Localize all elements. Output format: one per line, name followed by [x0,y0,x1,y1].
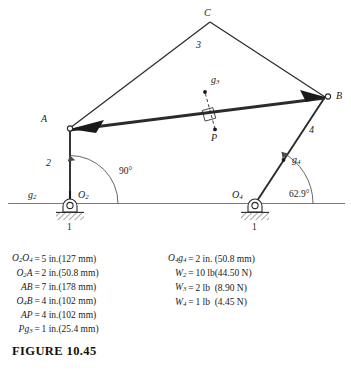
dimension-si-value: (25.4 mm) [58,323,98,338]
dimension-value: 2 in. [42,267,59,282]
dimension-column-left: O2O4=5 in.(127 mm)O2A=2 in.(50.8 mm)AB=7… [12,252,99,337]
dimension-row: AP=4 in.(102 mm) [12,309,99,322]
label-point-o2: O2 [78,190,89,202]
label-g2: g2 [28,190,37,202]
dimension-equals: = [33,309,42,322]
dimension-row: O2A=2 in.(50.8 mm) [12,267,99,282]
dimension-equals: = [186,252,195,267]
dimension-si-value: (44.50 N) [215,267,255,282]
dimension-symbol: W2 [168,267,186,282]
joint-b [325,94,330,99]
label-link-2: 2 [46,158,51,168]
dimension-data-block: O2O4=5 in.(127 mm)O2A=2 in.(50.8 mm)AB=7… [0,252,351,338]
dimension-value: 2 lb [195,281,214,296]
dimension-symbol: AB [12,281,33,294]
dimension-si-value: (102 mm) [58,295,98,310]
dimension-equals: = [33,295,42,310]
label-point-c: C [204,8,211,18]
label-point-a: A [41,114,47,124]
dimension-row: O4B=4 in.(102 mm) [12,295,99,310]
label-ground-right: 1 [252,222,257,232]
g4-marker [282,158,286,162]
dimension-si-value: (102 mm) [58,309,98,322]
label-g3: g3 [211,75,220,87]
dimension-equals: = [186,281,195,296]
dimension-symbol: W4 [168,296,186,311]
label-point-b: B [336,91,342,101]
dimension-value: 4 in. [42,295,59,310]
label-angle-90: 90° [119,166,132,176]
label-angle-62-9: 62.9° [289,189,309,199]
dimension-equals: = [33,267,42,282]
dimension-row: O2O4=5 in.(127 mm) [12,252,99,267]
label-g4: g4 [292,155,301,167]
dimension-equals: = [33,323,42,338]
dimension-symbol: W3 [168,281,186,296]
dimension-column-right: O4g4=2 in.(50.8 mm)W2=10 lb(44.50 N)W3=2… [168,252,255,311]
figure-caption: FIGURE 10.45 [12,344,97,359]
dimension-symbol: AP [12,309,33,322]
angle-arc-90 [68,156,118,204]
mechanism-diagram [0,0,351,250]
label-ground-left: 1 [67,222,72,232]
dimension-value: 7 in. [42,281,59,294]
dimension-value: 4 in. [42,309,59,322]
dimension-equals: = [33,252,42,267]
dimension-table-left: O2O4=5 in.(127 mm)O2A=2 in.(50.8 mm)AB=7… [12,252,99,337]
dimension-symbol: O4B [12,295,33,310]
dimension-si-value: (50.8 mm) [58,267,98,282]
dimension-rows-right: O4g4=2 in.(50.8 mm)W2=10 lb(44.50 N)W3=2… [168,252,255,311]
dimension-row: O4g4=2 in.(50.8 mm) [168,252,255,267]
dimension-rows-left: O2O4=5 in.(127 mm)O2A=2 in.(50.8 mm)AB=7… [12,252,99,337]
dimension-si-value: (127 mm) [58,252,98,267]
label-point-p: P [211,133,217,143]
dimension-table-right: O4g4=2 in.(50.8 mm)W2=10 lb(44.50 N)W3=2… [168,252,255,311]
figure-container: C 3 g3 B P A 2 4 g4 g2 O2 O4 90° 62.9° 1… [0,0,351,372]
dimension-row: Pg3=1 in.(25.4 mm) [12,323,99,338]
dimension-value: 5 in. [42,252,59,267]
dimension-si-value: (178 mm) [58,281,98,294]
dimension-row: W3=2 lb(8.90 N) [168,281,255,296]
dimension-si-value: (8.90 N) [215,281,255,296]
dimension-si-value: (50.8 mm) [215,252,255,267]
joint-a [67,126,72,131]
dimension-symbol: Pg3 [12,323,33,338]
label-point-o4: O4 [232,190,243,202]
dimension-value: 2 in. [195,252,214,267]
dimension-value: 1 lb [195,296,214,311]
dimension-equals: = [186,296,195,311]
dimension-equals: = [186,267,195,282]
dimension-value: 1 in. [42,323,59,338]
dimension-row: W4=1 lb(4.45 N) [168,296,255,311]
dimension-equals: = [33,281,42,294]
link-4-rocker [255,97,325,204]
label-link-4: 4 [309,125,314,135]
dimension-symbol: O4g4 [168,252,186,267]
label-link-3: 3 [196,40,201,50]
dimension-symbol: O2O4 [12,252,33,267]
fixed-pivot-o4 [241,199,269,220]
dimension-si-value: (4.45 N) [215,296,255,311]
dimension-value: 10 lb [195,267,214,282]
dimension-symbol: O2A [12,267,33,282]
dimension-row: AB=7 in.(178 mm) [12,281,99,294]
dimension-row: W2=10 lb(44.50 N) [168,267,255,282]
